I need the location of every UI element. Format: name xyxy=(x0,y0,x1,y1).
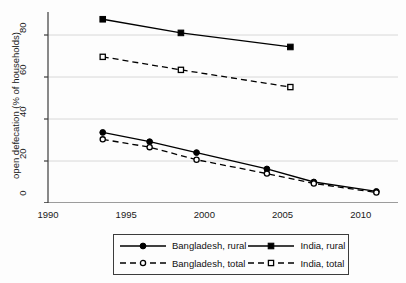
data-point-marker xyxy=(100,16,106,22)
legend-entry[interactable]: Bangladesh, total xyxy=(118,257,246,269)
series-india-rural xyxy=(100,16,293,49)
series-bangladesh-rural xyxy=(100,130,379,195)
y-axis-tick-label: 0 xyxy=(17,191,28,211)
x-axis-tick-label: 1990 xyxy=(26,209,70,220)
data-point-marker xyxy=(178,67,183,72)
y-axis-tick-label: 80 xyxy=(17,23,28,43)
y-axis-tick-label: 20 xyxy=(17,149,28,169)
data-point-marker xyxy=(194,150,200,156)
y-axis-tick-label: 40 xyxy=(17,107,28,127)
legend-filled-square-icon xyxy=(246,240,296,252)
data-point-marker xyxy=(147,139,153,145)
data-point-marker xyxy=(288,84,293,89)
x-axis-tick-label: 1995 xyxy=(104,209,148,220)
plot-canvas xyxy=(40,8,398,203)
data-point-marker xyxy=(100,137,105,142)
data-point-marker xyxy=(100,130,106,136)
legend-label: India, rural xyxy=(300,240,345,251)
data-point-marker xyxy=(374,190,379,195)
chart-screenshot: open defecation (% of households) 020406… xyxy=(0,0,406,283)
legend-marker xyxy=(269,243,275,249)
data-point-marker xyxy=(194,157,199,162)
data-point-marker xyxy=(100,54,105,59)
legend-entry[interactable]: India, rural xyxy=(246,240,345,252)
legend-open-circle-icon xyxy=(118,257,168,269)
legend-entry[interactable]: India, total xyxy=(246,257,345,269)
legend-label: Bangladesh, total xyxy=(172,258,245,269)
series-line xyxy=(103,19,291,47)
legend-entry[interactable]: Bangladesh, rural xyxy=(118,240,246,252)
series-bangladesh-total xyxy=(100,137,379,195)
legend-label: Bangladesh, rural xyxy=(172,240,246,251)
data-point-marker xyxy=(178,30,184,36)
series-line xyxy=(103,132,377,191)
legend-label: India, total xyxy=(300,258,344,269)
chart-legend: Bangladesh, ruralIndia, ruralBangladesh,… xyxy=(113,234,349,275)
series-line xyxy=(103,139,377,192)
plot-area xyxy=(40,8,398,203)
legend-marker xyxy=(269,261,274,266)
series-line xyxy=(103,57,291,87)
x-axis-tick-label: 2010 xyxy=(339,209,383,220)
data-point-marker xyxy=(147,145,152,150)
legend-marker xyxy=(140,261,145,266)
data-point-marker xyxy=(311,181,316,186)
legend-filled-circle-icon xyxy=(118,240,168,252)
data-point-marker xyxy=(288,44,294,50)
y-axis-tick-label: 60 xyxy=(17,65,28,85)
data-point-marker xyxy=(264,171,269,176)
series-india-total xyxy=(100,54,293,89)
legend-marker xyxy=(140,243,146,249)
legend-open-square-icon xyxy=(246,257,296,269)
x-axis-tick-label: 2000 xyxy=(182,209,226,220)
x-axis-tick-label: 2005 xyxy=(261,209,305,220)
